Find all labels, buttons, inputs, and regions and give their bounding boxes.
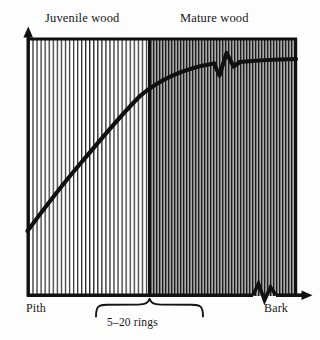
region-juvenile-wood (30, 39, 150, 296)
label-bark: Bark (264, 302, 288, 314)
diagram-canvas (0, 0, 320, 340)
label-rings-span: 5–20 rings (107, 317, 158, 329)
wood-property-diagram: Juvenile wood Mature wood Pith Bark 5–20… (0, 0, 320, 340)
plot-regions (30, 39, 297, 296)
label-juvenile-wood: Juvenile wood (45, 12, 120, 25)
transition-zone-brace (96, 299, 203, 317)
label-mature-wood: Mature wood (180, 12, 249, 25)
label-pith: Pith (26, 302, 46, 314)
